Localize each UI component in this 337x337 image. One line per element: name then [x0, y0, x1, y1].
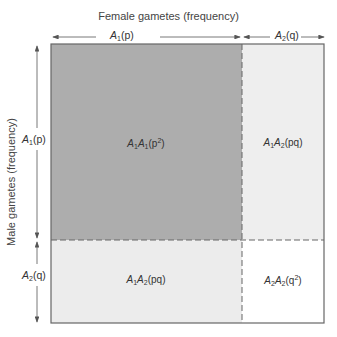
female-a1-label: A1(p): [108, 29, 136, 42]
cell-a1a2-top-label: A1A2(pq): [264, 137, 303, 149]
cell-a2a2-label: A2A2(q2): [264, 274, 301, 287]
male-a1-label: A1(p): [22, 133, 46, 146]
male-a2-label: A2(q): [22, 269, 46, 282]
cell-a1a2-bottom-label: A1A2(pq): [127, 274, 166, 286]
cell-a1a1-label: A1A1(p2): [127, 137, 164, 150]
female-a2-label: A2(q): [273, 29, 301, 42]
